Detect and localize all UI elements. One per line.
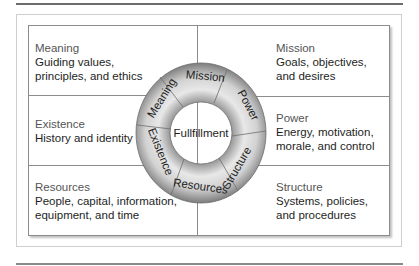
fulfillment-ring: Mission Power Structure Resources Existe… — [0, 0, 419, 266]
bottom-rule — [16, 263, 403, 265]
center-label: Fullfillment — [174, 127, 230, 139]
